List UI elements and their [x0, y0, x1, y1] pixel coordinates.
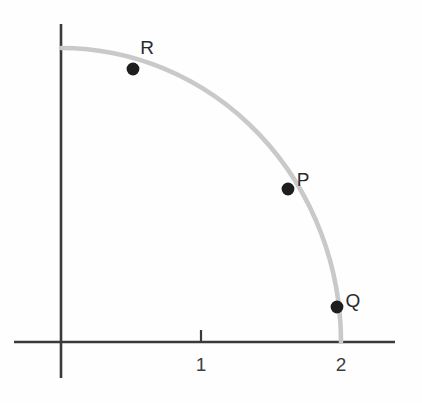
point-label-r: R	[140, 37, 154, 58]
data-point-q[interactable]	[331, 301, 344, 314]
point-label-q: Q	[346, 290, 361, 311]
plot-svg: R P Q 1 2	[0, 0, 422, 403]
x-tick-label-2: 2	[336, 354, 347, 375]
data-point-p[interactable]	[282, 183, 295, 196]
x-tick-label-1: 1	[196, 354, 207, 375]
data-point-r[interactable]	[127, 63, 140, 76]
point-label-p: P	[297, 169, 310, 190]
figure-canvas: R P Q 1 2	[0, 0, 422, 403]
arc-curve	[61, 48, 341, 342]
